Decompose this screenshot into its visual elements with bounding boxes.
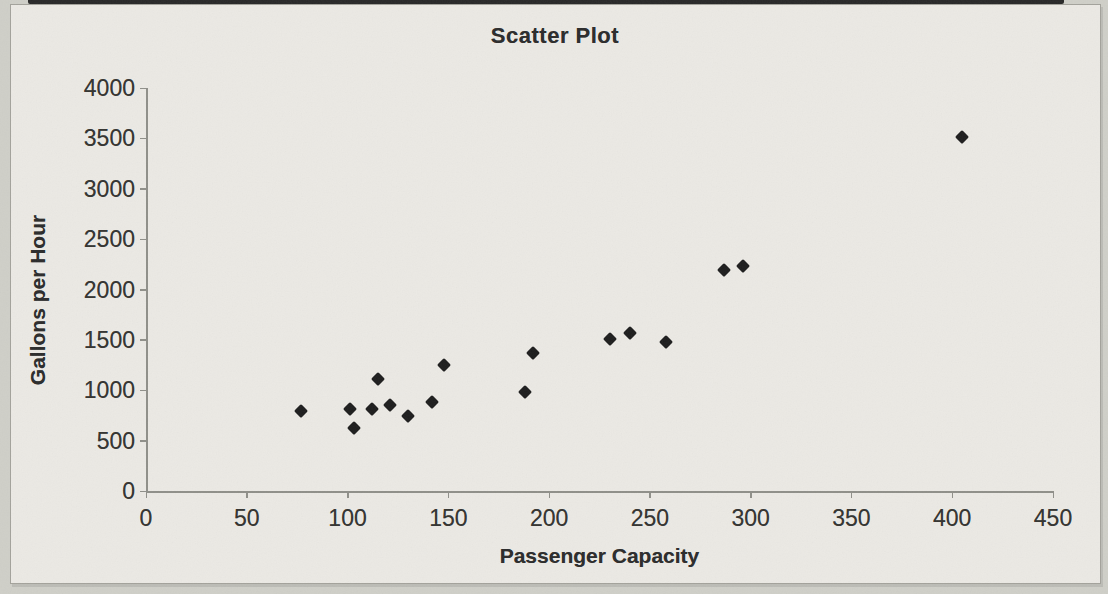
y-tick	[140, 491, 146, 493]
x-tick	[1053, 491, 1055, 498]
y-tick-label: 0	[45, 478, 135, 505]
x-tick	[146, 491, 148, 498]
chart-area	[10, 4, 1101, 584]
y-tick-label: 2500	[45, 226, 135, 253]
y-tick-label: 2000	[45, 277, 135, 304]
x-tick	[549, 491, 551, 498]
scanned-page: Scatter Plot Gallons per Hour Passenger …	[0, 0, 1108, 594]
y-tick	[140, 138, 146, 140]
x-tick-label: 300	[711, 505, 791, 532]
x-tick	[448, 491, 450, 498]
x-tick	[952, 491, 954, 498]
x-tick	[347, 491, 349, 498]
x-axis-line	[146, 491, 1053, 493]
x-tick-label: 100	[308, 505, 388, 532]
chart-title: Scatter Plot	[10, 23, 1100, 49]
y-tick	[140, 88, 146, 90]
x-tick	[649, 491, 651, 498]
x-tick-label: 250	[610, 505, 690, 532]
x-tick-label: 200	[509, 505, 589, 532]
x-tick	[246, 491, 248, 498]
y-tick-label: 3000	[45, 176, 135, 203]
x-tick	[851, 491, 853, 498]
y-tick-label: 4000	[45, 75, 135, 102]
y-tick	[140, 289, 146, 291]
y-tick	[140, 239, 146, 241]
x-tick-label: 350	[811, 505, 891, 532]
y-axis-line	[146, 88, 148, 491]
y-tick-label: 500	[45, 428, 135, 455]
y-tick-label: 1000	[45, 377, 135, 404]
x-tick-label: 150	[408, 505, 488, 532]
y-tick	[140, 339, 146, 341]
y-tick-label: 1500	[45, 327, 135, 354]
x-tick-label: 400	[912, 505, 992, 532]
y-tick	[140, 188, 146, 190]
y-tick-label: 3500	[45, 125, 135, 152]
x-tick	[750, 491, 752, 498]
x-axis-title: Passenger Capacity	[146, 544, 1053, 568]
x-tick-label: 0	[106, 505, 186, 532]
x-tick-label: 450	[1013, 505, 1093, 532]
y-tick	[140, 390, 146, 392]
y-tick	[140, 440, 146, 442]
x-tick-label: 50	[207, 505, 287, 532]
